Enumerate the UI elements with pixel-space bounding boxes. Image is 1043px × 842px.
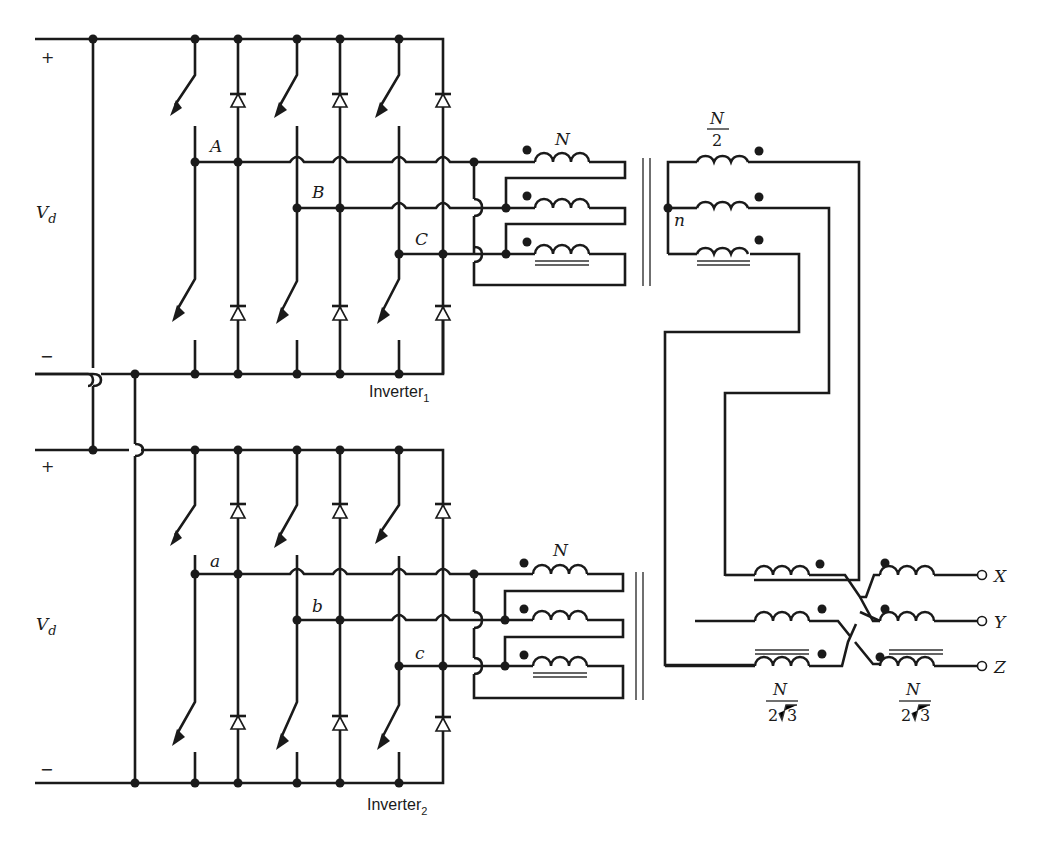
plus-sign-2: +: [41, 457, 54, 476]
neutral-label-n: n: [674, 210, 685, 230]
phase-label-B: B: [311, 182, 325, 202]
phase-label-b: b: [312, 596, 323, 616]
output-windings: X Y Z N 2 3 N 2 3: [665, 393, 1007, 725]
turns-N-over-2sqrt3-left: N 2 3: [766, 680, 798, 725]
minus-sign-2: −: [40, 760, 53, 779]
terminal-X: [978, 571, 987, 580]
svg-text:2: 2: [901, 706, 911, 725]
phase-B-line: [297, 203, 474, 208]
inverter-2-label: Inverter2: [367, 796, 427, 817]
transformer-2-primary: N: [470, 540, 624, 698]
svg-text:N: N: [772, 680, 788, 699]
dc-bus-negative-1-a: [35, 374, 93, 386]
transformer-1-primary: N: [470, 129, 626, 285]
vd-label-1: Vd: [36, 202, 57, 226]
terminal-Y: [978, 617, 987, 626]
transformer-1-secondary: n N 2: [664, 109, 860, 665]
phase-label-a: a: [210, 551, 220, 571]
inverter-2: + − Vd a b c Inverter2: [35, 446, 474, 818]
phase-label-A: A: [208, 136, 222, 156]
svg-text:3: 3: [787, 706, 797, 725]
inverter-1-label: Inverter1: [369, 383, 429, 404]
turns-N-over-2sqrt3-right: N 2 3: [899, 680, 931, 725]
coil-icon: [535, 153, 589, 162]
terminal-Z: [978, 662, 987, 671]
svg-text:N: N: [905, 680, 921, 699]
minus-sign-1: −: [40, 347, 53, 366]
transformer-core-1: [643, 158, 650, 286]
turns-N-over-2: N 2: [707, 109, 729, 150]
svg-text:N: N: [709, 109, 725, 128]
inverter-1: + − Vd A B C Inverter1: [35, 35, 474, 784]
plus-sign-1: +: [41, 48, 54, 67]
vd-label-2: Vd: [36, 614, 57, 638]
phase-label-c: c: [415, 643, 425, 663]
transformer-core-2: [636, 572, 643, 700]
coil-icon: [535, 199, 589, 208]
svg-text:2: 2: [712, 131, 722, 150]
phase-label-C: C: [415, 229, 428, 249]
output-label-Y: Y: [994, 612, 1007, 632]
svg-text:2: 2: [768, 706, 778, 725]
svg-text:3: 3: [920, 706, 930, 725]
coil-icon: [535, 245, 589, 254]
turns-N-1: N: [554, 129, 571, 149]
circuit-diagram: + − Vd A B C Inverter1 N: [0, 0, 1043, 842]
turns-N-2: N: [552, 540, 569, 560]
output-label-Z: Z: [993, 657, 1007, 677]
output-label-X: X: [992, 566, 1007, 586]
